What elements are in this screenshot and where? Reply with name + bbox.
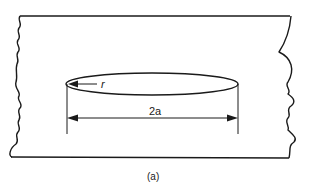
dimension-right-arrowhead-icon (227, 115, 238, 122)
tip-radius-label: r (101, 78, 106, 90)
plate-right-broken-edge (279, 16, 295, 158)
plate (10, 16, 295, 158)
plate-left-broken-edge (10, 16, 21, 157)
crack-length-label: 2a (149, 105, 162, 117)
plate-bottom-edge (11, 157, 289, 158)
figure-caption: (a) (147, 171, 159, 182)
crack-plate-diagram: r 2a (a) (0, 0, 310, 191)
tip-radius-indicator (68, 81, 97, 88)
radius-arrowhead-icon (68, 81, 78, 88)
dimension-left-arrowhead-icon (67, 115, 78, 122)
